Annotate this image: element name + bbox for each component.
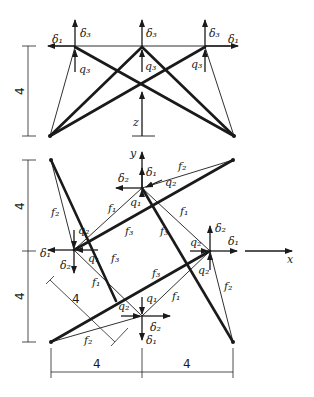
dim-left-lower: 4: [13, 292, 27, 300]
label-delta1: δ₁: [228, 33, 239, 46]
label-q3: q₃: [79, 63, 90, 76]
label-f3: f₃: [159, 225, 168, 238]
label-delta1: δ₁: [146, 334, 157, 347]
label-q1: q₁: [130, 196, 141, 209]
label-q2: q₂: [198, 264, 209, 277]
label-f1: f₁: [171, 290, 180, 303]
dim-diagonal: 4: [72, 292, 80, 306]
dim-left-upper: 4: [13, 202, 27, 210]
dim-bottom-left: 4: [93, 357, 101, 371]
label-delta1: δ₁: [146, 166, 157, 179]
label-delta2: δ₂: [150, 321, 161, 334]
label-q1: q₁: [146, 292, 157, 305]
label-delta1: δ₁: [228, 235, 239, 248]
label-f2: f₂: [223, 280, 232, 293]
dim-height: 4: [13, 87, 27, 95]
label-delta1: δ₁: [52, 33, 63, 46]
axis-y: y: [129, 147, 137, 160]
label-q2: q₂: [78, 224, 89, 237]
label-delta3: δ₃: [209, 27, 220, 40]
label-f1: f₁: [179, 205, 188, 218]
plan-view: y x δ₂ δ₁ q₂ q₁ f₂ f₂ q₂ δ₁ q₁ δ₂ f₁ f₃ …: [13, 147, 294, 378]
label-q2: q₂: [190, 236, 201, 249]
label-delta3: δ₃: [146, 27, 157, 40]
label-f1: f₁: [91, 276, 100, 289]
label-delta2: δ₂: [118, 172, 129, 185]
label-delta1: δ₁: [40, 247, 51, 260]
label-q2: q₂: [165, 176, 176, 189]
label-f2: f₂: [50, 206, 59, 219]
label-delta3: δ₃: [80, 27, 91, 40]
dim-bottom-right: 4: [183, 357, 191, 371]
axis-x: x: [287, 253, 294, 266]
label-f3: f₃: [110, 252, 119, 265]
label-f3: f₃: [151, 267, 160, 280]
label-z: z: [132, 116, 139, 129]
structure-diagram: δ₁ δ₃ δ₃ δ₃ δ₁ q₃ q₃ q₃ z 4: [0, 0, 314, 397]
label-q1: q₁: [88, 252, 99, 265]
label-f2: f₂: [177, 160, 186, 173]
label-delta2: δ₂: [60, 259, 71, 272]
label-delta2: δ₂: [215, 222, 226, 235]
label-q3: q₃: [191, 58, 202, 71]
label-q2: q₂: [118, 300, 129, 313]
top-view: δ₁ δ₃ δ₃ δ₃ δ₁ q₃ q₃ q₃ z 4: [13, 20, 239, 138]
label-f2: f₂: [83, 334, 92, 347]
label-f3: f₃: [124, 225, 133, 238]
label-f1: f₁: [107, 202, 116, 215]
label-q3: q₃: [145, 60, 156, 73]
